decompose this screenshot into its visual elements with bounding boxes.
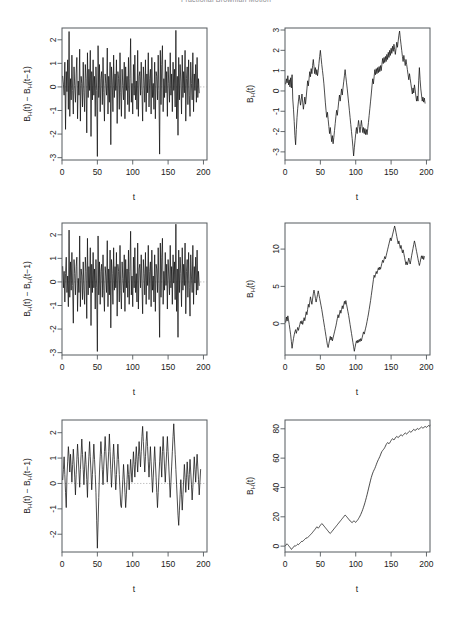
plot-frame [285, 223, 430, 355]
y-tick-label: 2 [48, 37, 58, 42]
x-tick-label: 50 [93, 167, 103, 177]
y-tick-label: 40 [271, 482, 281, 492]
panel-row2-path: 0501001502000510tBH(t) [245, 223, 434, 397]
x-axis-label: t [356, 192, 359, 202]
plot-layer: 050100150200-3-2-1012tBH(t) − BH(t−1)050… [0, 0, 452, 626]
x-tick-label: 200 [196, 362, 210, 372]
x-tick-label: 50 [316, 167, 326, 177]
data-series-line [286, 426, 430, 550]
x-tick-label: 100 [126, 167, 140, 177]
y-tick-label: 80 [271, 424, 281, 434]
y-tick-label: -1 [48, 505, 58, 513]
data-series-line [286, 31, 425, 156]
y-tick-label: 5 [271, 284, 281, 289]
x-tick-label: 200 [419, 362, 433, 372]
data-series-line [63, 30, 200, 156]
y-tick-label: -2 [271, 128, 281, 136]
y-tick-label: 0 [48, 84, 58, 89]
x-tick-label: 150 [161, 559, 175, 569]
y-tick-label: 3 [271, 27, 281, 32]
x-axis-label: t [133, 584, 136, 594]
x-tick-label: 150 [384, 167, 398, 177]
y-tick-label: -3 [48, 154, 58, 162]
y-tick-label: -3 [271, 148, 281, 156]
x-axis-label: t [356, 387, 359, 397]
y-axis-label: BH(t) [245, 85, 256, 103]
y-tick-label: 10 [271, 244, 281, 254]
y-axis-label: BH(t) [245, 477, 256, 495]
y-tick-label: -2 [48, 130, 58, 138]
x-tick-label: 100 [126, 362, 140, 372]
x-tick-label: 50 [316, 362, 326, 372]
y-tick-label: 1 [48, 61, 58, 66]
x-tick-label: 50 [93, 362, 103, 372]
x-axis-label: t [133, 192, 136, 202]
y-axis-label: BH(t) − BH(t−1) [22, 66, 33, 122]
x-tick-label: 150 [384, 362, 398, 372]
y-tick-label: 0 [48, 279, 58, 284]
x-tick-label: 0 [60, 362, 65, 372]
panel-row3-increments: 050100150200-2-1012tBH(t) − BH(t−1) [22, 420, 211, 594]
x-tick-label: 50 [93, 559, 103, 569]
plots-svg: 050100150200-3-2-1012tBH(t) − BH(t−1)050… [0, 0, 452, 626]
y-tick-label: -2 [48, 530, 58, 538]
plot-frame [285, 420, 430, 552]
y-tick-label: 1 [48, 455, 58, 460]
y-tick-label: -1 [48, 301, 58, 309]
x-tick-label: 200 [196, 167, 210, 177]
data-series-line [63, 224, 200, 351]
x-tick-label: 200 [419, 167, 433, 177]
x-tick-label: 150 [161, 362, 175, 372]
y-tick-label: 2 [271, 48, 281, 53]
x-axis-label: t [133, 387, 136, 397]
y-tick-label: -1 [271, 107, 281, 115]
y-tick-label: 1 [271, 68, 281, 73]
x-tick-label: 100 [349, 167, 363, 177]
y-tick-label: -2 [48, 325, 58, 333]
y-tick-label: 20 [271, 512, 281, 522]
panel-row1-increments: 050100150200-3-2-1012tBH(t) − BH(t−1) [22, 28, 211, 202]
y-axis-label: BH(t) [245, 280, 256, 298]
y-tick-label: 0 [271, 544, 281, 549]
x-tick-label: 0 [60, 167, 65, 177]
panel-row3-path: 050100150200020406080tBH(t) [245, 420, 434, 594]
x-tick-label: 0 [60, 559, 65, 569]
y-tick-label: 1 [48, 256, 58, 261]
x-tick-label: 0 [283, 559, 288, 569]
data-series-line [63, 424, 201, 548]
y-tick-label: 2 [48, 232, 58, 237]
y-axis-label: BH(t) − BH(t−1) [22, 458, 33, 514]
panel-row1-path: 050100150200-3-2-10123tBH(t) [245, 27, 434, 202]
y-tick-label: 60 [271, 453, 281, 463]
x-tick-label: 200 [196, 559, 210, 569]
y-tick-label: 0 [271, 88, 281, 93]
x-axis-label: t [356, 584, 359, 594]
y-tick-label: -1 [48, 106, 58, 114]
x-tick-label: 100 [126, 559, 140, 569]
y-tick-label: -3 [48, 349, 58, 357]
y-axis-label: BH(t) − BH(t−1) [22, 261, 33, 317]
x-tick-label: 50 [316, 559, 326, 569]
y-tick-label: 0 [48, 481, 58, 486]
x-tick-label: 150 [384, 559, 398, 569]
x-tick-label: 150 [161, 167, 175, 177]
x-tick-label: 100 [349, 362, 363, 372]
y-tick-label: 0 [271, 321, 281, 326]
panel-row2-increments: 050100150200-3-2-1012tBH(t) − BH(t−1) [22, 223, 211, 397]
x-tick-label: 100 [349, 559, 363, 569]
y-tick-label: 2 [48, 430, 58, 435]
data-series-line [286, 226, 425, 351]
x-tick-label: 0 [283, 167, 288, 177]
x-tick-label: 0 [283, 362, 288, 372]
x-tick-label: 200 [419, 559, 433, 569]
